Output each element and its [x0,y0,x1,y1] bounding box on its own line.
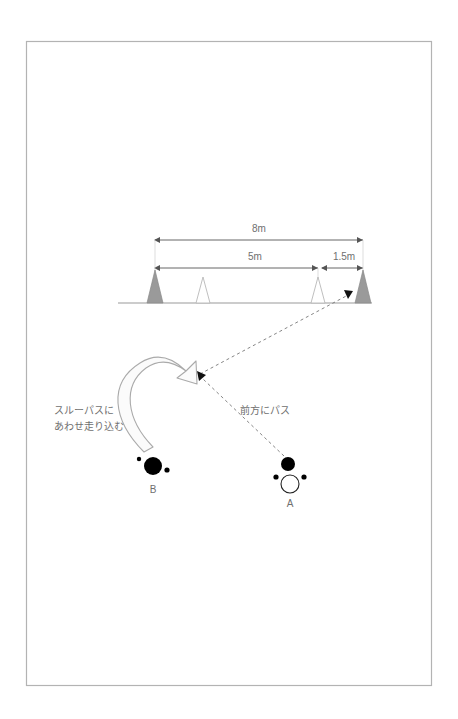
annotation-run-line-1: スルーパスに [54,405,114,416]
player-b-label: B [150,484,157,495]
pass-arrowhead-goal [344,290,353,299]
ball [281,457,295,471]
run-arrow-b [118,357,197,452]
dimension-gap-1-5m: 1.5m [322,251,363,268]
dimension-label-1-5m: 1.5m [333,251,355,262]
pass-line-through-to-goal [200,294,350,374]
dimension-total-8m: 8m [155,223,363,240]
dimension-label-8m: 8m [252,223,266,234]
annotation-run-line-2: あわせ走り込む [54,421,124,432]
drill-diagram-svg: 8m 5m 1.5m [0,0,458,719]
pass-arrowhead-junction [197,371,206,381]
cone-3 [311,277,325,303]
cone-1 [147,270,163,303]
player-a-label: A [287,498,294,509]
annotation-run: スルーパスに あわせ走り込む [54,405,124,432]
diagram-canvas: 8m 5m 1.5m [0,0,458,719]
pass-line-from-a [203,379,284,456]
page-border [27,42,432,686]
player-b: B [137,457,170,495]
annotation-pass: 前方にパス [240,404,290,416]
cone-4 [355,270,371,303]
dimension-middle-5m: 5m [155,251,318,268]
cone-2 [196,277,210,303]
dimension-label-5m: 5m [248,251,262,262]
player-a: A [273,474,306,509]
annotation-pass-line-1: 前方にパス [240,404,290,416]
